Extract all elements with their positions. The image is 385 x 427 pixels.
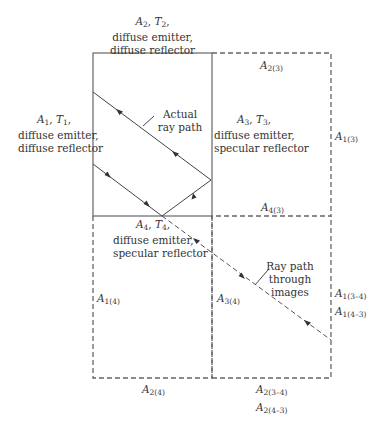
- label-a1-4: A1(4): [97, 292, 120, 308]
- images-line2: through: [265, 273, 315, 286]
- t2-sub: 2: [161, 20, 166, 29]
- a1-3-symbol: A: [335, 130, 343, 142]
- label-a4-3: A4(3): [261, 201, 284, 217]
- label-a1-34-a1-43: A1(3–4) A1(4–3): [335, 287, 367, 321]
- t1-sub: 1: [63, 118, 68, 127]
- actual-ray-leader: [143, 116, 154, 126]
- a4-sub: 4: [143, 223, 148, 232]
- a2-3-symbol: A: [260, 59, 268, 71]
- a1-34-sub: 1(3–4): [343, 292, 367, 301]
- surface-a3-label: A3, T3, diffuse emitter, specular reflec…: [214, 113, 294, 155]
- a3-4-symbol: A: [217, 292, 225, 304]
- a2-34-symbol: A: [256, 383, 264, 395]
- actual-line1: Actual: [155, 108, 205, 121]
- a1-43-symbol: A: [335, 305, 343, 317]
- label-a2-34-a2-43: A2(3–4) A2(4–3): [256, 383, 288, 417]
- a3-line1: diffuse emitter,: [214, 129, 294, 142]
- a2-4-sub: 2(4): [150, 388, 165, 397]
- label-a2-4: A2(4): [142, 383, 165, 399]
- a1-4-sub: 1(4): [105, 297, 120, 306]
- a3-line2: specular reflector: [214, 142, 294, 155]
- label-a3-4: A3(4): [217, 292, 240, 308]
- images-line1: Ray path: [265, 260, 315, 273]
- a2-3-sub: 2(3): [268, 64, 283, 73]
- t1-symbol: T: [56, 113, 63, 125]
- t3-symbol: T: [256, 113, 263, 125]
- a2-4-symbol: A: [142, 383, 150, 395]
- a2-line1: diffuse emitter,: [110, 31, 195, 44]
- a1-sub: 1: [44, 118, 49, 127]
- a3-sub: 3: [244, 118, 249, 127]
- label-a1-3: A1(3): [335, 130, 358, 146]
- a2-symbol: A: [135, 15, 143, 27]
- a2-line2: diffuse reflector: [110, 44, 195, 57]
- a4-line2: specular reflector: [113, 247, 193, 260]
- images-line3: images: [265, 286, 315, 299]
- t4-sub: 4: [162, 223, 167, 232]
- a1-43-sub: 1(4–3): [343, 310, 367, 319]
- actual-ray-label: Actual ray path: [155, 108, 205, 134]
- a1-line2: diffuse reflector: [18, 142, 90, 155]
- a1-4-symbol: A: [97, 292, 105, 304]
- enclosure-diagram: [0, 0, 385, 427]
- a2-43-sub: 2(4–3): [264, 406, 288, 415]
- surface-a1-label: A1, T1, diffuse emitter, diffuse reflect…: [18, 113, 90, 155]
- real-enclosure: [93, 53, 212, 216]
- image-ray-label: Ray path through images: [265, 260, 315, 299]
- label-a2-3: A2(3): [260, 59, 283, 75]
- a4-3-sub: 4(3): [269, 206, 284, 215]
- a2-34-sub: 2(3–4): [264, 388, 288, 397]
- surface-a2-label: A2, T2, diffuse emitter, diffuse reflect…: [110, 15, 195, 57]
- t4-symbol: T: [155, 218, 162, 230]
- t3-sub: 3: [263, 118, 268, 127]
- surface-a4-label: A4, T4, diffuse emitter, specular reflec…: [113, 218, 193, 260]
- a1-line1: diffuse emitter,: [18, 129, 90, 142]
- actual-line2: ray path: [155, 121, 205, 134]
- a4-3-symbol: A: [261, 201, 269, 213]
- a1-3-sub: 1(3): [343, 135, 358, 144]
- a2-43-symbol: A: [256, 401, 264, 413]
- a3-4-sub: 3(4): [225, 297, 240, 306]
- a1-34-symbol: A: [335, 287, 343, 299]
- a2-sub: 2: [143, 20, 148, 29]
- a4-line1: diffuse emitter,: [113, 234, 193, 247]
